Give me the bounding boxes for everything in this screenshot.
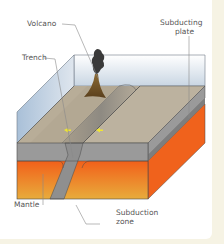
label-volcano: Volcano <box>27 19 56 28</box>
label-mantle: Mantle <box>14 200 39 209</box>
label-subduction-zone: Subduction zone <box>116 208 158 226</box>
label-trench: Trench <box>22 53 47 62</box>
block-front-face <box>17 143 148 199</box>
label-subducting-plate: Subducting plate <box>160 18 194 36</box>
